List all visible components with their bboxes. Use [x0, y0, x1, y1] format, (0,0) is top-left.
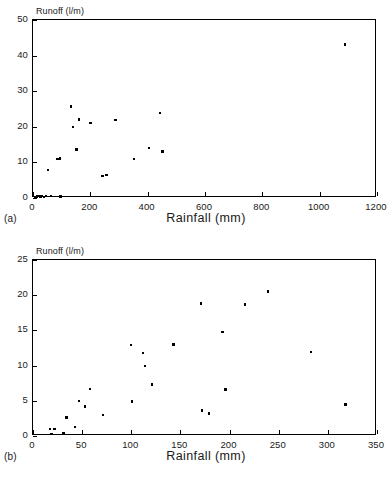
data-point [78, 118, 80, 120]
y-tick-0-3 [33, 91, 37, 92]
y-tick-1-0 [33, 436, 37, 437]
x-tick-1-1 [82, 430, 83, 434]
data-point [161, 150, 163, 152]
data-point [131, 400, 133, 402]
x-tick-1-0 [33, 430, 34, 434]
y-tick-label-0-1: 10 [2, 155, 28, 166]
x-tick-label-0-0: 0 [12, 201, 52, 212]
x-tick-label-1-6: 300 [307, 439, 347, 450]
y-tick-label-1-3: 15 [2, 323, 28, 334]
x-tick-1-4 [230, 430, 231, 434]
data-point [65, 416, 67, 418]
data-point [208, 412, 210, 414]
x-tick-label-0-2: 400 [127, 201, 167, 212]
data-point [78, 400, 80, 402]
chart-panel-b: Runoff (l/m) La Castanya 2 (r = .5986 si… [0, 240, 386, 478]
x-tick-label-0-6: 1200 [356, 201, 391, 212]
x-axis-label-a: Rainfall (mm) [96, 211, 316, 225]
x-tick-label-0-1: 200 [69, 201, 109, 212]
x-tick-1-7 [377, 430, 378, 434]
data-point [102, 414, 104, 416]
y-tick-0-1 [33, 162, 37, 163]
y-tick-1-2 [33, 366, 37, 367]
data-point [101, 175, 103, 177]
data-point [59, 195, 61, 197]
data-point [244, 303, 246, 305]
data-point [159, 112, 161, 114]
plot-area-b [32, 259, 376, 435]
data-point [53, 428, 55, 430]
data-point [133, 158, 135, 160]
x-tick-label-1-7: 350 [356, 439, 391, 450]
x-tick-label-1-2: 100 [110, 439, 150, 450]
data-point [144, 365, 146, 367]
y-axis-label-b: Runoff (l/m) [36, 246, 84, 256]
data-point [50, 195, 52, 197]
x-tick-label-1-3: 150 [159, 439, 199, 450]
data-point [114, 119, 116, 121]
data-point [224, 388, 226, 390]
y-tick-1-3 [33, 330, 37, 331]
data-point [105, 174, 107, 176]
y-tick-label-0-3: 30 [2, 84, 28, 95]
y-tick-0-5 [33, 20, 37, 21]
y-tick-label-1-5: 25 [2, 253, 28, 264]
chart-panel-a: Runoff (l/m) Santa Fe 1 (r = .7689 si = … [0, 0, 386, 240]
x-tick-1-6 [328, 430, 329, 434]
x-tick-0-4 [262, 192, 263, 196]
data-point [221, 331, 223, 333]
data-point [49, 428, 51, 430]
y-tick-1-4 [33, 295, 37, 296]
data-point [142, 352, 144, 354]
data-point [310, 351, 312, 353]
x-tick-0-2 [148, 192, 149, 196]
data-point [201, 409, 203, 411]
x-tick-label-1-1: 50 [61, 439, 101, 450]
y-tick-label-0-4: 40 [2, 49, 28, 60]
x-tick-label-1-4: 200 [209, 439, 249, 450]
x-tick-0-6 [377, 192, 378, 196]
x-tick-label-0-5: 1000 [299, 201, 339, 212]
data-point [50, 433, 52, 435]
y-tick-label-0-2: 20 [2, 120, 28, 131]
y-tick-0-0 [33, 198, 37, 199]
data-point [74, 426, 76, 428]
x-tick-0-3 [205, 192, 206, 196]
y-tick-0-4 [33, 56, 37, 57]
data-point [89, 388, 91, 390]
y-axis-label-a: Runoff (l/m) [36, 6, 84, 16]
data-point [89, 122, 91, 124]
y-tick-label-1-1: 5 [2, 394, 28, 405]
x-axis-label-b: Rainfall (mm) [96, 449, 316, 463]
data-point [75, 148, 77, 150]
panel-letter-a: (a) [4, 213, 17, 224]
x-tick-label-0-4: 800 [241, 201, 281, 212]
y-tick-1-5 [33, 260, 37, 261]
x-tick-label-0-3: 600 [184, 201, 224, 212]
data-point [130, 344, 132, 346]
data-point [344, 43, 346, 45]
data-point [267, 290, 269, 292]
data-point [72, 126, 74, 128]
x-tick-label-1-5: 250 [258, 439, 298, 450]
data-point [47, 169, 49, 171]
data-point [151, 383, 153, 385]
data-point [84, 405, 86, 407]
y-tick-1-1 [33, 401, 37, 402]
data-point [62, 432, 64, 434]
x-tick-0-1 [90, 192, 91, 196]
x-tick-1-2 [131, 430, 132, 434]
plot-area-a [32, 19, 376, 197]
y-tick-label-1-2: 10 [2, 359, 28, 370]
y-tick-0-2 [33, 127, 37, 128]
x-tick-label-1-0: 0 [12, 439, 52, 450]
x-tick-0-5 [320, 192, 321, 196]
x-tick-1-3 [180, 430, 181, 434]
y-tick-label-0-5: 50 [2, 13, 28, 24]
data-point [45, 195, 47, 197]
data-point [148, 147, 150, 149]
data-point [172, 343, 174, 345]
panel-letter-b: (b) [4, 451, 17, 462]
y-tick-label-1-4: 20 [2, 288, 28, 299]
x-tick-1-5 [279, 430, 280, 434]
